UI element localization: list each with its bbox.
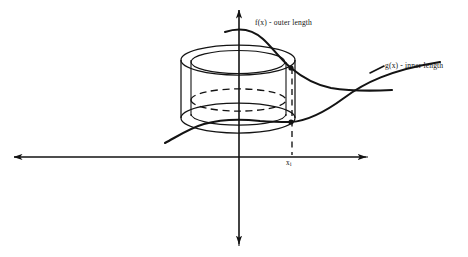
x-tick-subscript: i (290, 161, 292, 167)
curves-group (165, 29, 440, 143)
figure-svg (0, 0, 468, 257)
g-label-leader-line (370, 66, 384, 73)
shell-bottom-outer-ellipse (181, 103, 295, 133)
inner-curve-label: g(x) - inner length (385, 62, 443, 70)
x-tick-label: xi (286, 160, 292, 168)
outer-curve-label: f(x) - outer length (255, 19, 312, 27)
f-intersection-dot (288, 65, 293, 70)
diagram-canvas: f(x) - outer length g(x) - inner length … (0, 0, 468, 257)
g-intersection-dot (288, 119, 293, 124)
shell-top-outer-ellipse (181, 45, 295, 75)
